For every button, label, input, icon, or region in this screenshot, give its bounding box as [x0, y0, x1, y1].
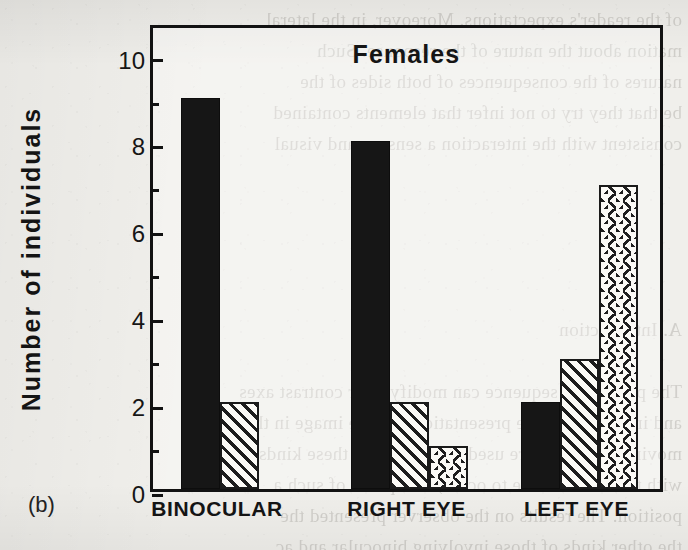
bar-group: [181, 22, 298, 489]
bar: [599, 185, 638, 489]
bar: [429, 446, 468, 489]
tick-mark: [152, 320, 163, 323]
y-tick-label: 4: [132, 307, 145, 335]
bar: [390, 402, 429, 489]
plot-inner: Females 0246810: [153, 28, 660, 489]
y-axis-label-text: Number of individuals: [17, 106, 46, 411]
tick-mark: [152, 189, 159, 192]
tick-mark: [152, 146, 163, 149]
bar: [351, 141, 390, 489]
bar: [560, 359, 599, 489]
bar-group: [351, 22, 468, 489]
y-tick-label: 8: [132, 133, 145, 161]
tick-mark: [152, 276, 159, 279]
bar: [521, 402, 560, 489]
bar-group: [521, 22, 638, 489]
y-tick-label: 10: [118, 47, 145, 75]
y-axis-label: Number of individuals: [8, 25, 54, 492]
panel-label: (b): [28, 492, 55, 518]
y-tick-label: 2: [132, 394, 145, 422]
y-tick-label: 6: [132, 220, 145, 248]
x-axis-category-label: LEFT EYE: [467, 497, 687, 521]
tick-mark: [152, 363, 159, 366]
tick-mark: [152, 233, 163, 236]
tick-mark: [152, 103, 159, 106]
tick-mark: [152, 59, 163, 62]
bar: [220, 402, 259, 489]
tick-mark: [152, 450, 159, 453]
bar: [181, 98, 220, 489]
x-axis-category-label: BINOCULAR: [107, 497, 327, 521]
tick-mark: [152, 407, 163, 410]
plot-area: Females 0246810: [150, 25, 663, 492]
figure-panel-b: Number of individuals (b) Females 024681…: [0, 0, 688, 550]
